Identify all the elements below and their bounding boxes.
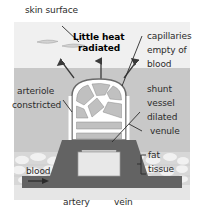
blood-flow-label: blood (26, 166, 50, 177)
artery-label: artery (63, 197, 90, 208)
radiated-label: radiated (78, 43, 120, 54)
tissue-label: tissue (148, 164, 174, 175)
skin-surface-label: skin surface (25, 5, 78, 16)
constricted-label: constricted (12, 100, 61, 111)
empty-of-label: empty of (147, 45, 187, 56)
fat-label: fat (148, 150, 160, 161)
little-heat-label: Little heat (73, 32, 125, 43)
capillary-network (70, 79, 128, 140)
dilated-label: dilated (147, 112, 177, 123)
capillaries-label: capillaries (147, 31, 192, 42)
capillary-cell-8 (77, 133, 122, 139)
vessel-label: vessel (147, 98, 175, 109)
blood-label: blood (147, 59, 171, 70)
figure-root: skin surface Little heat radiated capill… (0, 0, 204, 215)
shunt-lumen-window (78, 152, 120, 176)
venule-label: venule (150, 126, 180, 137)
arteriole-label: arteriole (17, 86, 54, 97)
shunt-label: shunt (147, 84, 172, 95)
vein-label: vein (114, 197, 133, 208)
shunt-vessel-dilated (62, 140, 136, 150)
capillary-cell-7 (77, 122, 122, 129)
